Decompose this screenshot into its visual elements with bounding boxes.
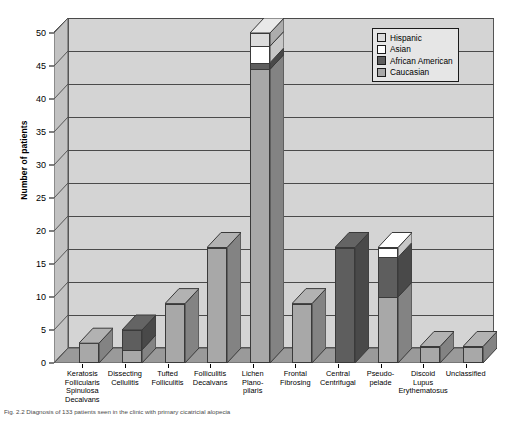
- bar-stack: [292, 18, 312, 363]
- y-tick-label: 10: [24, 292, 46, 302]
- legend-item: Asian: [377, 44, 453, 56]
- x-tick-mark: [210, 364, 211, 368]
- legend-label: African American: [390, 56, 453, 66]
- y-tick-label: 35: [24, 127, 46, 137]
- bar-stack: [250, 18, 270, 363]
- y-tick-label: 0: [24, 358, 46, 368]
- legend-swatch: [377, 45, 386, 54]
- x-tick-mark: [466, 364, 467, 368]
- y-tick-label: 50: [24, 28, 46, 38]
- x-axis-label-line: Erythematosus: [394, 387, 452, 396]
- legend-label: Caucasian: [390, 67, 429, 77]
- legend-label: Asian: [390, 44, 411, 54]
- bar-stack: [79, 18, 99, 363]
- bar-stack: [122, 18, 142, 363]
- x-tick-mark: [168, 364, 169, 368]
- x-axis-label-line: Decalvans: [53, 396, 111, 405]
- bar-stack: [463, 18, 483, 363]
- legend-item: Caucasian: [377, 67, 453, 79]
- bar-3d-faces: [335, 18, 369, 365]
- y-tick-label: 40: [24, 94, 46, 104]
- bar-stack: [207, 18, 227, 363]
- x-tick-mark: [125, 364, 126, 368]
- bar-3d-faces: [122, 18, 156, 365]
- legend-item: Hispanic: [377, 32, 453, 44]
- y-tick-label: 5: [24, 325, 46, 335]
- stacked-bar-chart: Number of patients 05101520253035404550 …: [0, 0, 528, 422]
- legend-swatch: [377, 56, 386, 65]
- x-axis-label-line: pilaris: [224, 387, 282, 396]
- y-tick-label: 15: [24, 259, 46, 269]
- y-tick-label: 30: [24, 160, 46, 170]
- bar-3d-faces: [463, 18, 497, 365]
- bar-3d-faces: [165, 18, 199, 365]
- bar-3d-faces: [292, 18, 326, 365]
- legend-swatch: [377, 68, 386, 77]
- legend-swatch: [377, 33, 386, 42]
- legend: HispanicAsianAfrican AmericanCaucasian: [372, 28, 459, 82]
- bar-stack: [165, 18, 185, 363]
- x-tick-mark: [253, 364, 254, 368]
- x-tick-mark: [82, 364, 83, 368]
- figure-caption: Fig. 2.2 Diagnosis of 133 patients seen …: [4, 408, 524, 415]
- x-tick-mark: [338, 364, 339, 368]
- x-tick-mark: [381, 364, 382, 368]
- y-tick-label: 25: [24, 193, 46, 203]
- x-axis-label-line: Unclassified: [437, 370, 495, 379]
- x-tick-mark: [295, 364, 296, 368]
- y-tick-label: 20: [24, 226, 46, 236]
- bar-3d-faces: [207, 18, 241, 365]
- x-tick-mark: [423, 364, 424, 368]
- bar-stack: [335, 18, 355, 363]
- legend-label: Hispanic: [390, 33, 422, 43]
- bar-3d-faces: [79, 18, 113, 365]
- x-axis-label: Unclassified: [437, 370, 495, 379]
- bar-3d-faces: [250, 18, 284, 365]
- legend-item: African American: [377, 55, 453, 67]
- y-tick-label: 45: [24, 61, 46, 71]
